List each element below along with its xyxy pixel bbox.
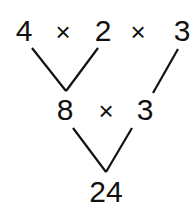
factor-tree-diagram: 4 × 2 × 3 8 × 3 24: [0, 0, 196, 211]
times-operator-2: ×: [126, 19, 150, 45]
branch-3-to-24: [106, 128, 132, 172]
times-operator-3: ×: [94, 98, 118, 124]
result-24: 24: [82, 177, 130, 207]
factor-8: 8: [53, 95, 77, 125]
factor-4: 4: [12, 16, 36, 46]
branch-4-to-8: [32, 48, 66, 91]
times-operator-1: ×: [51, 19, 75, 45]
branch-8-to-24: [73, 128, 106, 172]
factor-3-middle: 3: [133, 95, 157, 125]
factor-2: 2: [91, 16, 115, 46]
factor-3-top: 3: [170, 16, 194, 46]
branch-2-to-8: [66, 48, 98, 91]
branch-3-to-3: [153, 49, 178, 93]
